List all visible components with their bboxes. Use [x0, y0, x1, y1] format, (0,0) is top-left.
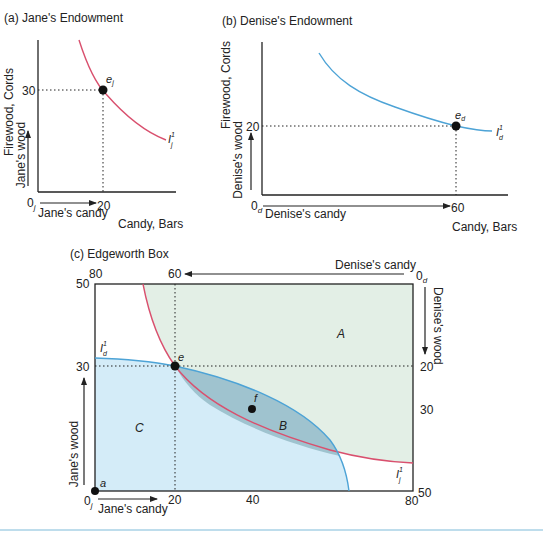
- top-left-tick: 80: [89, 267, 103, 281]
- panel-b-x-label: Candy, Bars: [452, 220, 517, 234]
- bottom-tick-40: 40: [246, 493, 260, 507]
- top-arrow-label: Denise's candy: [335, 258, 416, 272]
- panel-a-origin: 0j: [27, 196, 36, 212]
- denise-indifference-curve: [319, 53, 492, 131]
- edgeworth-figure: (a) Jane's Endowment Firewood, Cords Jan…: [0, 0, 543, 538]
- panel-a-y-tick: 30: [22, 84, 36, 98]
- region-c-label: C: [135, 421, 144, 435]
- bottom-tick-80: 80: [405, 494, 419, 508]
- jane-indifference-curve: [79, 40, 166, 140]
- panel-b-x-arrow-label: Denise's candy: [265, 207, 346, 221]
- panel-b-point-label: ed: [455, 109, 466, 122]
- panel-b-title: (b) Denise's Endowment: [222, 14, 353, 28]
- panel-b-curve-label: I1d: [496, 124, 504, 141]
- bottom-origin: 0j: [84, 494, 93, 510]
- curve-j-label: I1j: [396, 466, 403, 484]
- point-e-label: e: [178, 351, 184, 363]
- curve-d-label: I1d: [100, 340, 108, 357]
- panel-b-y-label: Firewood, Cords: [219, 41, 233, 129]
- point-f: [248, 405, 256, 413]
- top-tick-60: 60: [168, 267, 182, 281]
- left-arrow-label: Jane's wood: [67, 421, 81, 487]
- panel-c-title: (c) Edgeworth Box: [70, 247, 169, 261]
- top-right-origin: 0d: [416, 269, 428, 285]
- panel-denise-endowment: (b) Denise's Endowment Firewood, Cords D…: [219, 14, 517, 234]
- panel-b-y-arrow-label: Denise's wood: [231, 121, 245, 199]
- panel-b-x-tick: 60: [451, 201, 465, 215]
- panel-b-y-tick: 20: [246, 120, 260, 134]
- panel-a-title: (a) Jane's Endowment: [4, 11, 124, 25]
- panel-b-origin: 0d: [251, 199, 263, 215]
- panel-edgeworth-box: (c) Edgeworth Box e f a A B C I1d I1j 80…: [67, 247, 445, 516]
- panel-a-x-label: Candy, Bars: [118, 217, 183, 231]
- left-tick-30: 30: [76, 360, 90, 374]
- region-b-label: B: [279, 419, 287, 433]
- left-tick-50: 50: [76, 277, 90, 291]
- right-tick-20: 20: [420, 360, 434, 374]
- point-a-label: a: [100, 477, 106, 489]
- panel-a-x-arrow-label: Jane's candy: [38, 206, 108, 220]
- right-tick-30: 30: [420, 403, 434, 417]
- panel-a-y-arrow-label: Jane's wood: [14, 122, 28, 188]
- endowment-point-ed: [452, 122, 461, 131]
- endowment-point-ej: [99, 86, 108, 95]
- panel-a-curve-label: I1j: [168, 131, 175, 149]
- bottom-tick-20: 20: [168, 493, 182, 507]
- right-tick-50: 50: [418, 486, 432, 500]
- region-a-label: A: [336, 327, 345, 341]
- panel-a-point-label: ej: [106, 73, 114, 87]
- origin-point-a: [91, 487, 99, 495]
- bottom-arrow-label: Jane's candy: [98, 502, 168, 516]
- right-arrow-label: Denise's wood: [431, 287, 445, 365]
- panel-jane-endowment: (a) Jane's Endowment Firewood, Cords Jan…: [2, 11, 183, 231]
